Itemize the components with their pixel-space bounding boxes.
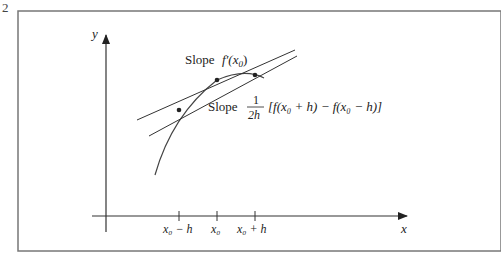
tangent-slope-label: Slope f′(x0) bbox=[185, 52, 247, 69]
tick-label-x0-minus-h: x₀ − h bbox=[162, 222, 193, 236]
secant-fraction-numerator: 1 bbox=[253, 93, 259, 107]
y-axis-label: y bbox=[90, 26, 98, 41]
secant-fraction-denominator: 2h bbox=[248, 108, 260, 122]
x-axis-label: x bbox=[400, 221, 407, 236]
point-x0-minus-h bbox=[177, 108, 182, 113]
secant-slope-expression: [f(x₀ + h) − f(x₀ − h)] bbox=[268, 99, 382, 114]
secant-slope-label-prefix: Slope bbox=[208, 99, 238, 114]
secant-line bbox=[149, 56, 297, 136]
tick-label-x0-plus-h: x₀ + h bbox=[236, 222, 267, 236]
central-difference-diagram: y x x₀ − h x₀ x₀ + h Slope f′(x0) Slope … bbox=[0, 0, 501, 265]
point-x0 bbox=[215, 78, 220, 83]
tick-label-x0: x₀ bbox=[210, 222, 221, 236]
figure-frame bbox=[18, 11, 501, 251]
point-x0-plus-h bbox=[253, 73, 258, 78]
